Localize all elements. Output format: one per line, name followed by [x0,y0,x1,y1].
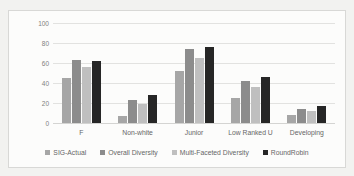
bar [307,111,316,123]
bar-groups: FNon-whiteJuniorLow Ranked UDeveloping [53,23,335,123]
legend-item[interactable]: RoundRobin [263,149,309,156]
bar [185,49,194,123]
bar [148,95,157,123]
legend-swatch-icon [45,150,50,155]
bar [118,116,127,123]
legend-label: Multi-Faceted Diversity [180,149,249,156]
y-axis-tick-label: 80 [42,40,49,47]
bar-group: F [53,23,109,123]
bar [317,106,326,123]
bar [261,77,270,123]
x-axis-category-label: F [53,129,109,136]
bar [92,61,101,123]
bar [251,87,260,123]
x-axis-category-label: Junior [166,129,222,136]
bar [297,109,306,123]
bar [205,47,214,123]
chart-legend: SIG-ActualOverall DiversityMulti-Faceted… [9,149,345,156]
y-axis-tick-label: 40 [42,80,49,87]
bar [128,100,137,123]
y-axis-tick-label: 20 [42,100,49,107]
plot-area: 020406080100 FNon-whiteJuniorLow Ranked … [53,23,335,123]
bar [287,115,296,123]
legend-item[interactable]: Overall Diversity [100,149,157,156]
bar [241,81,250,123]
y-axis-tick-label: 0 [45,120,49,127]
bar [62,78,71,123]
x-axis-category-label: Non-white [109,129,165,136]
x-axis-category-label: Low Ranked U [222,129,278,136]
plot-wrapper: Authors Percent 020406080100 FNon-whiteJ… [9,11,345,167]
y-axis-tick-label: 100 [38,20,49,27]
bar [82,67,91,123]
y-axis-tick-label: 60 [42,60,49,67]
legend-item[interactable]: Multi-Faceted Diversity [172,149,249,156]
chart-container: Authors Percent 020406080100 FNon-whiteJ… [8,10,346,168]
bar-group: Low Ranked U [222,23,278,123]
legend-swatch-icon [263,150,268,155]
legend-label: SIG-Actual [53,149,86,156]
legend-label: RoundRobin [271,149,309,156]
bar [72,60,81,123]
legend-label: Overall Diversity [108,149,157,156]
legend-swatch-icon [172,150,177,155]
bar-group: Junior [166,23,222,123]
bar [175,71,184,123]
bar [231,98,240,123]
legend-item[interactable]: SIG-Actual [45,149,86,156]
bar [195,58,204,123]
bar-group: Non-white [109,23,165,123]
x-axis-category-label: Developing [279,129,335,136]
bar-group: Developing [279,23,335,123]
legend-swatch-icon [100,150,105,155]
bar [138,104,147,123]
gridline [53,123,335,124]
